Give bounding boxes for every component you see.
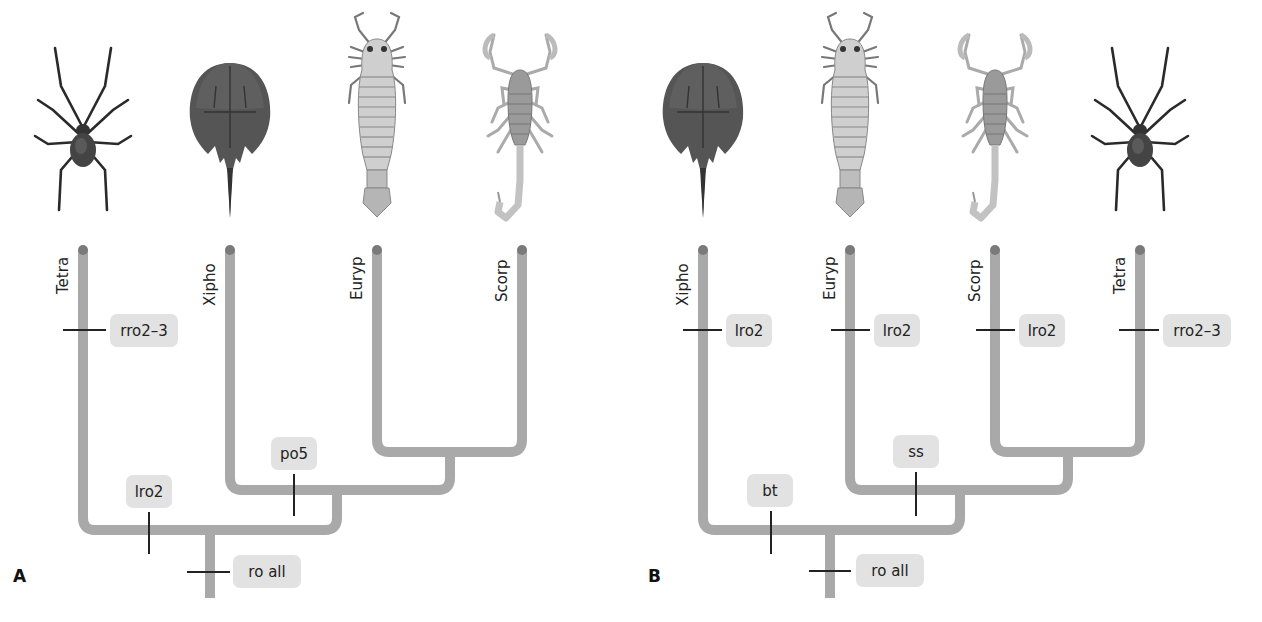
taxon-label-xipho: Xipho — [674, 263, 692, 306]
taxon-label-scorp: Scorp — [493, 259, 511, 302]
panel-a-tree — [78, 245, 527, 598]
panel-a-taxon-labels: Tetra Xipho Euryp Scorp — [54, 256, 511, 306]
horseshoe-crab-illustration — [663, 63, 743, 218]
svg-text:ro all: ro all — [871, 562, 908, 580]
svg-text:ss: ss — [908, 443, 924, 461]
panel-label-b: B — [648, 566, 661, 586]
character-lro2-xipho-b: lro2 — [683, 314, 772, 347]
panel-a-illustrations — [35, 13, 555, 218]
panel-b-taxon-labels: Xipho Euryp Scorp Tetra — [674, 256, 1129, 306]
svg-text:po5: po5 — [280, 445, 308, 463]
panel-a: Tetra Xipho Euryp Scorp rro2–3 po5 lro2 … — [13, 13, 555, 598]
taxon-label-tetra: Tetra — [54, 257, 72, 295]
character-bt-b: bt — [747, 474, 793, 554]
taxon-label-euryp: Euryp — [821, 256, 839, 300]
phylogeny-figure: Tetra Xipho Euryp Scorp rro2–3 po5 lro2 … — [0, 0, 1262, 622]
svg-text:lro2: lro2 — [135, 483, 164, 501]
spider-illustration — [1092, 48, 1188, 210]
svg-text:lro2: lro2 — [735, 322, 764, 340]
character-po5-a: po5 — [271, 437, 317, 516]
svg-text:ro all: ro all — [248, 563, 285, 581]
character-lro2-a: lro2 — [126, 475, 172, 554]
spider-illustration — [35, 48, 131, 210]
eurypterid-illustration — [822, 13, 878, 217]
scorpion-illustration — [960, 35, 1030, 218]
svg-text:lro2: lro2 — [883, 322, 912, 340]
svg-text:bt: bt — [762, 482, 778, 500]
horseshoe-crab-illustration — [190, 63, 270, 218]
panel-label-a: A — [13, 566, 27, 586]
panel-b-tree — [698, 245, 1145, 598]
character-lro2-euryp-b: lro2 — [831, 314, 920, 347]
svg-text:lro2: lro2 — [1028, 322, 1057, 340]
taxon-label-scorp: Scorp — [966, 259, 984, 302]
character-ss-b: ss — [893, 435, 939, 516]
character-lro2-scorp-b: lro2 — [976, 314, 1065, 347]
svg-text:rro2–3: rro2–3 — [120, 322, 168, 340]
panel-b-illustrations — [663, 13, 1188, 218]
character-ro-all-a: ro all — [187, 555, 301, 588]
taxon-label-tetra: Tetra — [1111, 257, 1129, 295]
scorpion-illustration — [485, 35, 555, 218]
taxon-label-xipho: Xipho — [201, 263, 219, 306]
svg-text:rro2–3: rro2–3 — [1173, 322, 1221, 340]
eurypterid-illustration — [349, 13, 405, 217]
panel-b: Xipho Euryp Scorp Tetra lro2 lro2 lro2 r… — [648, 13, 1231, 598]
taxon-label-euryp: Euryp — [348, 256, 366, 300]
